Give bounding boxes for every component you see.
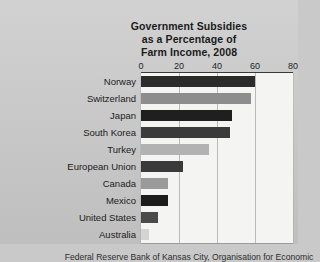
plot-bottom-rule xyxy=(141,243,293,244)
bar-track xyxy=(141,107,293,124)
chart-row: Japan xyxy=(40,107,320,124)
chart-row: Canada xyxy=(40,175,320,192)
chart-row: United States xyxy=(40,209,320,226)
bar-mexico xyxy=(141,195,168,206)
category-label-european-union: European Union xyxy=(40,161,136,172)
bar-united-states xyxy=(141,212,158,223)
category-label-turkey: Turkey xyxy=(40,144,136,155)
bar-track xyxy=(141,141,293,158)
category-label-australia: Australia xyxy=(40,229,136,240)
category-label-norway: Norway xyxy=(40,76,136,87)
category-label-switzerland: Switzerland xyxy=(40,93,136,104)
bar-norway xyxy=(141,76,255,87)
category-label-japan: Japan xyxy=(40,110,136,121)
bar-track xyxy=(141,226,293,243)
bar-switzerland xyxy=(141,93,251,104)
category-label-united-states: United States xyxy=(40,212,136,223)
bar-track xyxy=(141,90,293,107)
chart-title: Government Subsidies as a Percentage of … xyxy=(40,20,320,60)
bar-european-union xyxy=(141,161,183,172)
chart-row: South Korea xyxy=(40,124,320,141)
bar-track xyxy=(141,209,293,226)
bar-track xyxy=(141,175,293,192)
x-tick-label-0: 0 xyxy=(138,61,143,72)
x-tick-label-80: 80 xyxy=(288,61,298,72)
chart-row: Norway xyxy=(40,73,320,90)
bar-track xyxy=(141,124,293,141)
chart-source-caption: Federal Reserve Bank of Kansas City, Org… xyxy=(40,252,320,262)
chart-row: Mexico xyxy=(40,192,320,209)
chart-row: Australia xyxy=(40,226,320,243)
category-label-mexico: Mexico xyxy=(40,195,136,206)
chart-title-line-3: Farm Income, 2008 xyxy=(40,46,320,59)
chart-title-line-2: as a Percentage of xyxy=(40,33,320,46)
bar-turkey xyxy=(141,144,209,155)
bar-track xyxy=(141,73,293,90)
bar-japan xyxy=(141,110,232,121)
category-label-south-korea: South Korea xyxy=(40,127,136,138)
bar-canada xyxy=(141,178,168,189)
chart-row: European Union xyxy=(40,158,320,175)
x-tick-label-20: 20 xyxy=(174,61,184,72)
chart-rows: NorwaySwitzerlandJapanSouth KoreaTurkeyE… xyxy=(40,73,320,243)
category-label-canada: Canada xyxy=(40,178,136,189)
bar-chart-figure: Government Subsidies as a Percentage of … xyxy=(40,16,320,260)
x-tick-label-60: 60 xyxy=(250,61,260,72)
x-tick-label-40: 40 xyxy=(212,61,222,72)
bar-south-korea xyxy=(141,127,230,138)
bar-track xyxy=(141,192,293,209)
bar-australia xyxy=(141,229,149,240)
bar-track xyxy=(141,158,293,175)
chart-row: Turkey xyxy=(40,141,320,158)
chart-title-line-1: Government Subsidies xyxy=(40,20,320,33)
chart-row: Switzerland xyxy=(40,90,320,107)
